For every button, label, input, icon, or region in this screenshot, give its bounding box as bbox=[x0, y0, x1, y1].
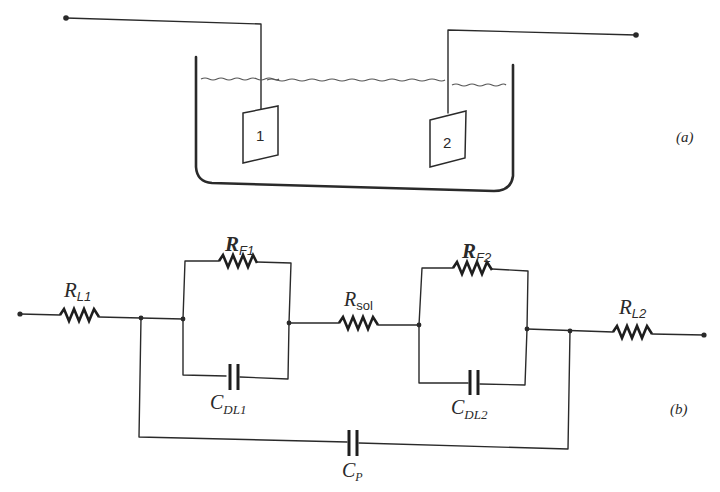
circuit-right-terminal-dot bbox=[701, 332, 706, 337]
wire bbox=[20, 314, 60, 315]
electrochemical-cell-figure: 1 2 (a) RL1 RF1 CDL1 bbox=[0, 0, 720, 492]
wire bbox=[183, 261, 219, 319]
label-CP: CP bbox=[342, 459, 363, 484]
label-CDL1: CDL1 bbox=[210, 391, 246, 417]
wire bbox=[492, 269, 528, 329]
resistor-RL2 bbox=[613, 326, 652, 338]
label-RL2: RL2 bbox=[618, 295, 647, 321]
label-Rsol: Rsol bbox=[343, 288, 373, 313]
part-b-label: (b) bbox=[670, 401, 688, 418]
wire bbox=[240, 323, 289, 379]
electrode-1-lead-wire bbox=[66, 18, 261, 110]
part-a-label: (a) bbox=[676, 129, 694, 146]
label-RL1: RL1 bbox=[63, 278, 91, 304]
label-RF2: RF2 bbox=[461, 239, 492, 265]
label-CDL2: CDL2 bbox=[451, 396, 488, 422]
part-a-cell: 1 2 (a) bbox=[63, 15, 693, 191]
solution-surface-right bbox=[452, 84, 506, 86]
electrode-1-label: 1 bbox=[256, 127, 264, 144]
electrode-2: 2 bbox=[430, 111, 466, 167]
wire bbox=[419, 268, 453, 325]
wire bbox=[183, 319, 226, 376]
wire bbox=[419, 325, 468, 383]
wire bbox=[359, 331, 570, 449]
electrode-2-lead-wire bbox=[448, 30, 636, 113]
solution-surface-middle bbox=[267, 79, 445, 81]
wire bbox=[257, 262, 291, 323]
wire bbox=[652, 334, 704, 335]
part-b-circuit: RL1 RF1 CDL1 Rsol RF bbox=[17, 232, 706, 484]
wire bbox=[139, 318, 347, 442]
resistor-RL1 bbox=[60, 309, 99, 321]
wire bbox=[480, 329, 527, 385]
resistor-Rsol bbox=[339, 317, 378, 329]
electrode-2-label: 2 bbox=[443, 134, 451, 151]
label-RF1: RF1 bbox=[224, 232, 254, 258]
electrode-1: 1 bbox=[243, 106, 278, 163]
